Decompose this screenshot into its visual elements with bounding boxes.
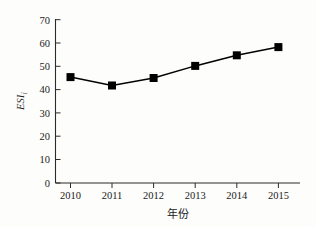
data-point-marker bbox=[274, 43, 282, 51]
y-tick-label: 60 bbox=[40, 38, 51, 49]
x-tick-label: 2015 bbox=[268, 190, 289, 201]
y-tick-label: 50 bbox=[40, 61, 51, 72]
x-tick-label: 2012 bbox=[143, 190, 164, 201]
data-point-marker bbox=[233, 51, 241, 59]
x-tick-label: 2013 bbox=[185, 190, 206, 201]
data-point-marker bbox=[191, 62, 199, 70]
line-chart: 70 60 50 40 30 20 10 0 2010 2011 2012 20… bbox=[0, 0, 316, 227]
x-tick-label: 2014 bbox=[226, 190, 248, 201]
y-axis-title-subscript: i bbox=[20, 92, 29, 94]
y-tick-label: 70 bbox=[40, 15, 51, 26]
y-tick-label: 10 bbox=[40, 154, 51, 165]
svg-text:ESIi: ESIi bbox=[15, 92, 29, 111]
x-tick-label: 2010 bbox=[60, 190, 81, 201]
y-tick-label: 0 bbox=[45, 178, 50, 189]
x-axis-tick-labels: 2010 2011 2012 2013 2014 2015 bbox=[60, 190, 289, 201]
y-tick-label: 20 bbox=[40, 131, 51, 142]
x-axis-ticks bbox=[71, 183, 279, 188]
x-axis-title: 年份 bbox=[167, 207, 189, 220]
data-point-marker bbox=[67, 73, 75, 81]
y-axis-tick-labels: 70 60 50 40 30 20 10 0 bbox=[40, 15, 51, 189]
data-point-marker bbox=[108, 82, 116, 90]
x-tick-label: 2011 bbox=[102, 190, 123, 201]
data-point-marker bbox=[150, 74, 158, 82]
y-tick-label: 30 bbox=[40, 108, 51, 119]
figure-container: 70 60 50 40 30 20 10 0 2010 2011 2012 20… bbox=[0, 0, 316, 227]
data-series-line bbox=[71, 47, 279, 85]
y-axis-ticks bbox=[56, 20, 61, 183]
y-axis-title-group: ESIi bbox=[15, 92, 29, 111]
y-tick-label: 40 bbox=[40, 84, 51, 95]
y-axis-title: ESI bbox=[15, 94, 26, 111]
